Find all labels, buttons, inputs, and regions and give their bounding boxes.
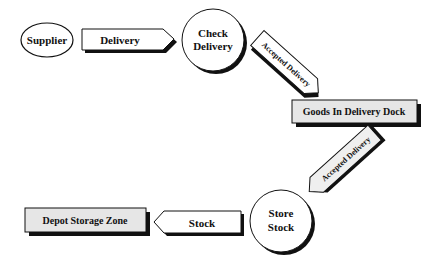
depot-storage-zone-node: Depot Storage Zone — [25, 208, 150, 236]
supplier-label: Supplier — [27, 34, 67, 46]
check-delivery-node: Check Delivery — [182, 9, 247, 74]
check-delivery-line2: Delivery — [193, 40, 233, 52]
store-stock-line1: Store — [269, 207, 294, 219]
delivery-label: Delivery — [100, 34, 140, 46]
check-delivery-line1: Check — [198, 27, 229, 39]
stock-label: Stock — [189, 217, 216, 229]
delivery-arrow: Delivery — [82, 29, 177, 53]
store-stock-line2: Stock — [268, 221, 295, 233]
goods-in-delivery-dock-node: Goods In Delivery Dock — [292, 100, 421, 127]
depot-label: Depot Storage Zone — [43, 215, 129, 226]
stock-arrow: Stock — [154, 211, 244, 236]
process-diagram: Supplier Delivery Check Delivery Accepte… — [0, 0, 438, 268]
goods-in-label: Goods In Delivery Dock — [303, 106, 406, 117]
supplier-node: Supplier — [21, 23, 73, 57]
accepted-delivery-arrow-2: Accepted Delivery — [303, 123, 386, 201]
store-stock-node: Store Stock — [250, 190, 315, 255]
accepted-delivery-arrow-1: Accepted Delivery — [249, 31, 328, 105]
